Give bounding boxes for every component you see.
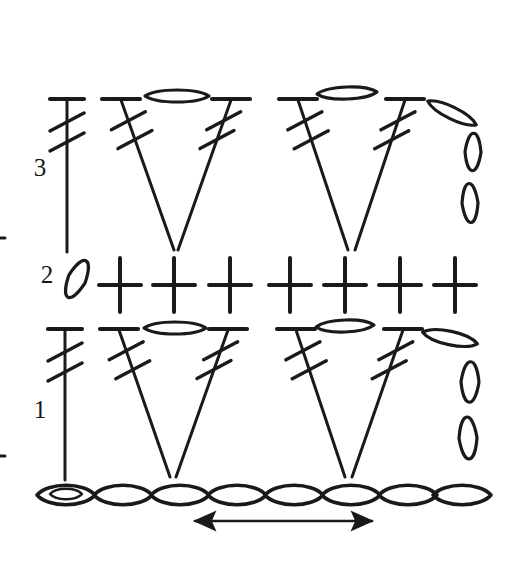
row-label-2: 2: [41, 261, 54, 288]
crochet-diagram-canvas: 321: [0, 0, 520, 564]
diagram-background: [0, 0, 520, 564]
row-label-3: 3: [34, 154, 47, 181]
crochet-diagram-root: 321: [0, 0, 520, 564]
row-label-1: 1: [34, 396, 47, 423]
